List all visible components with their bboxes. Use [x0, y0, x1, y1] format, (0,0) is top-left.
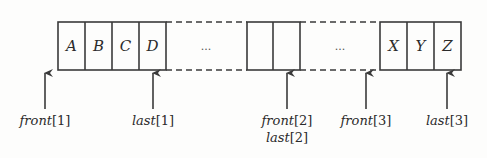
label-last-3: last[3]	[426, 113, 468, 128]
gap-1-ellipsis: ...	[201, 40, 212, 53]
label-front-1: front[1]	[19, 113, 71, 128]
cell-Y: Y	[416, 37, 428, 55]
segment-3: X Y Z	[380, 22, 461, 70]
cell-Z: Z	[441, 37, 453, 55]
gap-2: ...	[300, 22, 380, 70]
segment-2	[247, 22, 300, 70]
cell-C: C	[120, 37, 132, 55]
cell-X: X	[387, 37, 400, 55]
label-front-3: front[3]	[340, 113, 392, 128]
shared-array-diagram: A B C D ... ... X Y Z front[1] last[1] f…	[0, 0, 487, 158]
label-last-2: last[2]	[266, 130, 308, 145]
cell-A: A	[64, 37, 77, 55]
label-last-1: last[1]	[132, 113, 174, 128]
label-front-2: front[2]	[261, 113, 313, 128]
segment-1: A B C D	[58, 22, 166, 70]
cell-B: B	[92, 37, 104, 55]
gap-2-ellipsis: ...	[335, 40, 346, 53]
gap-1: ...	[166, 22, 247, 70]
cell-D: D	[145, 37, 158, 55]
